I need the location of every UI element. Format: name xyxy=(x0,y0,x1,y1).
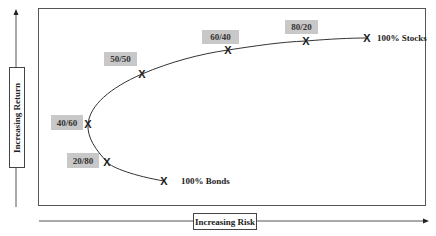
marker-x-icon: X xyxy=(363,33,370,44)
marker-x-icon: X xyxy=(224,45,231,56)
marker-x-icon: X xyxy=(138,69,145,80)
label-80-20: 80/20 xyxy=(285,20,318,34)
marker-x-icon: X xyxy=(84,119,91,130)
y-axis-label-box: Increasing Return xyxy=(9,67,25,168)
label-20-80: 20/80 xyxy=(67,153,99,168)
marker-x-icon: X xyxy=(103,157,110,168)
marker-x-icon: X xyxy=(160,176,167,187)
label-40-60: 40/60 xyxy=(51,115,83,130)
label-100-stocks: 100% Stocks xyxy=(377,33,427,43)
x-axis-arrow-icon xyxy=(423,219,429,224)
marker-x-icon: X xyxy=(302,36,309,47)
x-axis-label: Increasing Risk xyxy=(195,217,255,227)
label-60-40: 60/40 xyxy=(202,30,239,44)
x-axis-label-box: Increasing Risk xyxy=(193,213,257,230)
y-axis-label: Increasing Return xyxy=(12,82,22,152)
risk-return-diagram: Increasing Return Increasing Risk 40/60 … xyxy=(0,0,436,236)
y-axis-arrow-icon xyxy=(14,9,19,15)
label-100-bonds: 100% Bonds xyxy=(181,176,230,186)
label-50-50: 50/50 xyxy=(104,52,137,66)
